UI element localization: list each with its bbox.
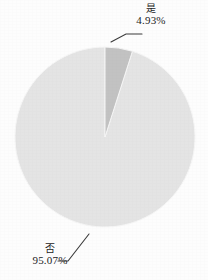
pie-chart-canvas	[0, 0, 208, 280]
slice-label-no: 否 95.07%	[14, 244, 86, 266]
slice-label-yes-name: 是	[121, 4, 181, 15]
slice-label-no-name: 否	[14, 244, 86, 255]
slice-label-no-value: 95.07%	[14, 255, 86, 267]
slice-label-yes-value: 4.93%	[121, 15, 181, 27]
pie-chart-figure: 是 4.93% 否 95.07%	[0, 0, 208, 280]
leader-line-yes	[111, 34, 142, 42]
slice-label-yes: 是 4.93%	[121, 4, 181, 26]
